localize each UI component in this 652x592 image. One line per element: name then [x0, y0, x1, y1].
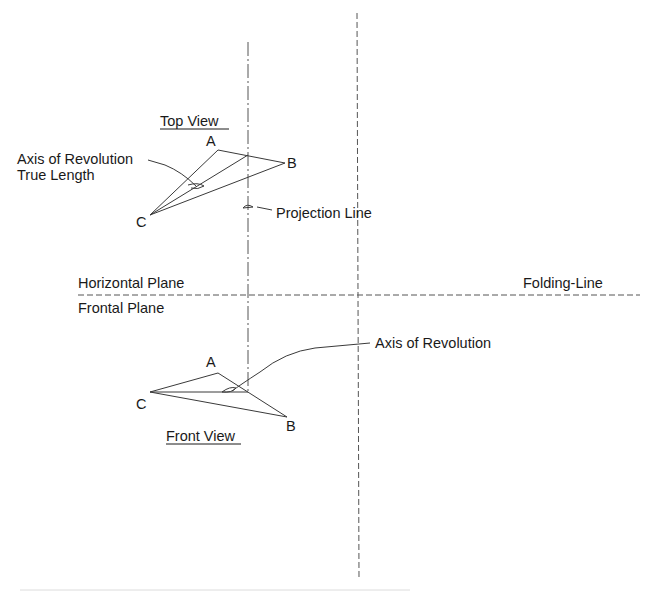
- leader-axis-true-length: [148, 160, 196, 186]
- front-point-b: B: [286, 418, 296, 434]
- axis-true-length-label-2: True Length: [17, 167, 95, 183]
- front-view-geometry: [150, 373, 287, 417]
- top-point-a: A: [206, 133, 216, 149]
- folding-line-label: Folding-Line: [523, 275, 603, 291]
- front-point-a: A: [206, 354, 216, 370]
- axis-of-revolution-label: Axis of Revolution: [375, 335, 491, 351]
- front-view-title: Front View: [166, 428, 236, 444]
- front-point-c: C: [136, 396, 146, 412]
- leader-arrow-arc: [188, 184, 204, 189]
- top-view-title: Top View: [160, 113, 219, 129]
- top-point-c: C: [136, 214, 146, 230]
- leader-projection-line: [257, 207, 272, 210]
- top-view-geometry: [150, 150, 285, 215]
- leader-axis-of-revolution: [232, 343, 370, 391]
- leader-arrow-arc-3: [222, 388, 236, 393]
- revolution-diagram: Top View A B C Axis of Revolution True L…: [0, 0, 652, 592]
- projection-line-label: Projection Line: [276, 205, 372, 221]
- horizontal-plane-label: Horizontal Plane: [78, 275, 184, 291]
- top-point-b: B: [287, 155, 297, 171]
- frontal-plane-label: Frontal Plane: [78, 300, 164, 316]
- axis-true-length-label-1: Axis of Revolution: [17, 151, 133, 167]
